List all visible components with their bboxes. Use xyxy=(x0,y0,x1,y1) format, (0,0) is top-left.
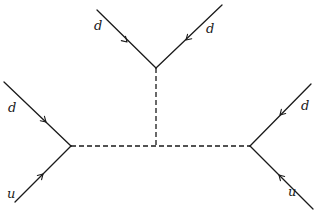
particle-label-left-lower: u xyxy=(7,186,15,201)
internal-propagators xyxy=(71,68,250,146)
particle-label-right-lower: u xyxy=(288,184,296,199)
fermion-line-right-lower xyxy=(250,146,313,209)
fermion-arrows xyxy=(37,34,285,180)
particle-label-left-upper: d xyxy=(8,100,16,115)
particle-label-top-right: d xyxy=(206,21,214,36)
external-fermion-lines xyxy=(4,5,313,209)
particle-label-right-upper: d xyxy=(301,98,309,113)
particle-labels: dudddu xyxy=(7,18,309,201)
particle-label-top-left: d xyxy=(94,18,102,33)
fermion-line-top-right xyxy=(156,5,222,68)
feynman-diagram: dudddu xyxy=(0,0,325,217)
